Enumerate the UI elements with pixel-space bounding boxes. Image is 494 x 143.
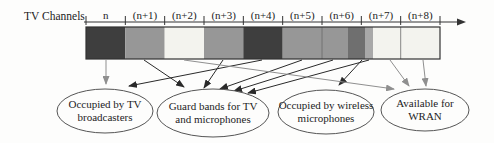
diagram-canvas: TV Channels n(n+1)(n+2)(n+3)(n+4)(n+5)(n… xyxy=(0,0,494,143)
bar-segment-occupied-by-wireless-mic xyxy=(348,27,365,59)
arrow-to-occupied-by-wireless-microphones xyxy=(339,60,362,85)
category-ellipse-label: Available for xyxy=(396,97,454,109)
arrow-to-guard-bands xyxy=(234,60,333,91)
arrow-to-guard-bands xyxy=(144,60,184,87)
channel-label: (n+6) xyxy=(329,9,354,22)
channel-label: (n+7) xyxy=(369,9,394,22)
channel-label: (n+2) xyxy=(172,9,197,22)
bar-segment-guard-band xyxy=(365,27,373,59)
channel-label: (n+8) xyxy=(408,9,433,22)
category-ellipse-label: broadcasters xyxy=(78,111,133,123)
arrow-to-available-for-wran xyxy=(390,60,409,86)
bar-segment-occupied-by-tv xyxy=(243,27,282,59)
bar-segment-guard-band xyxy=(283,27,348,59)
category-ellipse-label: WRAN xyxy=(408,110,442,122)
category-ellipse-label: Occupied by wireless xyxy=(279,99,374,111)
channel-label: (n+4) xyxy=(251,9,276,22)
axis-arrowhead-icon xyxy=(457,19,466,26)
channel-labels: n(n+1)(n+2)(n+3)(n+4)(n+5)(n+6)(n+7)(n+8… xyxy=(103,9,433,22)
spectrum-bar xyxy=(86,27,440,59)
category-ellipse-label: Occupied by TV xyxy=(68,98,141,110)
bar-segment-available-for-wran xyxy=(165,27,204,59)
axis-title: TV Channels xyxy=(24,10,85,22)
bar-segment-occupied-by-tv xyxy=(86,27,125,59)
category-ellipses: Occupied by TVbroadcastersGuard bands fo… xyxy=(57,89,469,137)
category-ellipse-label: microphones xyxy=(298,112,355,124)
channel-label: n xyxy=(103,9,109,21)
category-ellipse-label: and microphones xyxy=(175,113,250,125)
bar-segment-guard-band xyxy=(125,27,164,59)
arrow-to-available-for-wran xyxy=(423,60,426,86)
spectrum-diagram: TV Channels n(n+1)(n+2)(n+3)(n+4)(n+5)(n… xyxy=(0,0,494,143)
bar-segment-guard-band xyxy=(204,27,243,59)
channel-label: (n+1) xyxy=(133,9,158,22)
mapping-arrows xyxy=(106,60,426,93)
channel-label: (n+5) xyxy=(290,9,315,22)
arrow-to-guard-bands xyxy=(248,60,369,93)
bar-segment-available-for-wran xyxy=(373,27,440,59)
category-ellipse-label: Guard bands for TV xyxy=(169,100,258,112)
channel-label: (n+3) xyxy=(211,9,236,22)
